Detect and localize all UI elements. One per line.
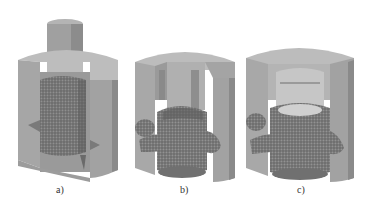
panel-a: a) xyxy=(0,0,125,211)
panel-c: c) xyxy=(240,0,366,211)
panel-b: b) xyxy=(125,0,240,211)
die-workpiece-illustration-c xyxy=(240,0,366,211)
panel-label-c: c) xyxy=(297,184,305,195)
panel-label-b: b) xyxy=(180,184,188,195)
hollow-top xyxy=(278,104,322,116)
die-left-wall xyxy=(135,62,155,175)
panel-label-a: a) xyxy=(56,184,64,195)
die-billet-illustration-a xyxy=(0,0,125,211)
die-left-wall xyxy=(18,60,40,168)
branch-left-upper xyxy=(135,119,155,137)
branch-left-upper xyxy=(246,113,266,131)
die-workpiece-illustration-b xyxy=(125,0,240,211)
